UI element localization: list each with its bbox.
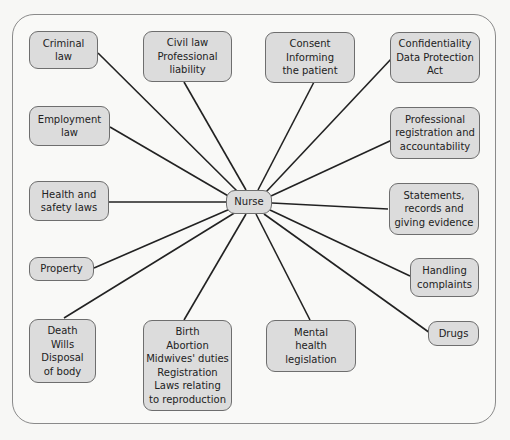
node-health-safety: Health and safety laws bbox=[29, 181, 109, 221]
node-criminal-law: Criminal law bbox=[29, 31, 98, 69]
connector-statements-records bbox=[272, 203, 388, 209]
node-consent: Consent Informing the patient bbox=[265, 32, 355, 83]
connector-property bbox=[94, 209, 230, 268]
node-employment-law: Employment law bbox=[29, 106, 110, 146]
node-mental-health: Mental health legislation bbox=[266, 320, 356, 372]
connector-civil-law bbox=[184, 82, 246, 190]
node-statements-records: Statements, records and giving evidence bbox=[389, 183, 479, 235]
node-birth: Birth Abortion Midwives' duties Registra… bbox=[143, 320, 232, 411]
connector-consent bbox=[258, 82, 314, 190]
connector-employment-law bbox=[110, 127, 230, 197]
connector-mental-health bbox=[256, 214, 310, 320]
node-drugs: Drugs bbox=[428, 321, 479, 346]
node-property: Property bbox=[29, 257, 94, 281]
node-confidentiality: Confidentiality Data Protection Act bbox=[390, 32, 480, 83]
node-civil-law: Civil law Professional liability bbox=[143, 31, 232, 82]
connector-birth bbox=[184, 214, 246, 320]
node-death: Death Wills Disposal of body bbox=[29, 319, 96, 383]
node-handling-complaints: Handling complaints bbox=[410, 258, 479, 297]
node-center-nurse: Nurse bbox=[226, 190, 272, 214]
node-professional-registration: Professional registration and accountabi… bbox=[390, 107, 480, 159]
